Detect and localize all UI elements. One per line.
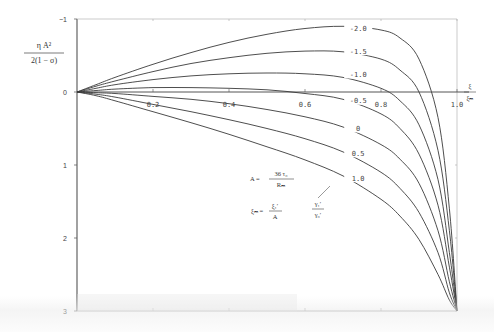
x-label-numerator: ξ [469,82,472,90]
y-tick-label: 3 [63,308,67,315]
formula-a-numerator: 36 τ₀ [274,170,287,177]
formula-b-denominator: A [273,213,278,220]
axes: −101230.20.40.60.81.0 [59,16,469,315]
y-axis-label: η A² 2(1 − σ) [24,41,64,65]
curve-series [77,92,457,311]
x-tick-label: 0.6 [299,101,312,109]
x-tick-label: 0.4 [223,101,236,109]
series-label: -1.0 [350,71,367,79]
formula-b-lhs: ξₘ = [251,207,264,215]
curve-series [77,87,457,311]
parameter-leader-line [318,186,330,198]
series-label: 1.0 [352,175,365,183]
parameter-denominator: γ₀′ [314,211,322,218]
y-label-numerator: η A² [37,41,52,50]
curves [77,26,457,311]
x-label-denominator: ξₘ [467,94,474,102]
formula-b: ξₘ = ξ₁′ A [251,202,282,220]
x-axis-label: ξ ξₘ [464,82,476,102]
formula-b-numerator: ξ₁′ [272,202,279,210]
parameter-numerator: γ₁′ [314,200,322,207]
chart-plot: −101230.20.40.60.81.0 -2.0-1.5-1.0-0.500… [0,0,494,332]
series-label: -2.0 [350,25,367,33]
formula-a: A = 36 τ₀ Rₘ [250,170,294,188]
series-label: 0.5 [352,150,365,158]
y-tick-label: 1 [63,162,67,169]
curve-series [77,92,457,311]
curve-series [77,92,457,311]
y-tick-label: 0 [63,89,67,96]
series-label: 0 [356,125,360,133]
x-tick-label: 0.8 [375,101,388,109]
x-tick-label: 1.0 [451,101,464,109]
formula-a-denominator: Rₘ [277,181,285,188]
parameter-label: γ₁′ γ₀′ [312,186,330,218]
y-label-denominator: 2(1 − σ) [31,56,57,65]
y-tick-label: 2 [63,235,67,242]
series-label: -1.5 [350,48,367,56]
series-label: -0.5 [350,97,367,105]
curve-series [77,73,457,311]
curve-series [77,26,457,311]
formula-a-lhs: A = [250,175,260,182]
y-tick-label: −1 [59,16,67,23]
